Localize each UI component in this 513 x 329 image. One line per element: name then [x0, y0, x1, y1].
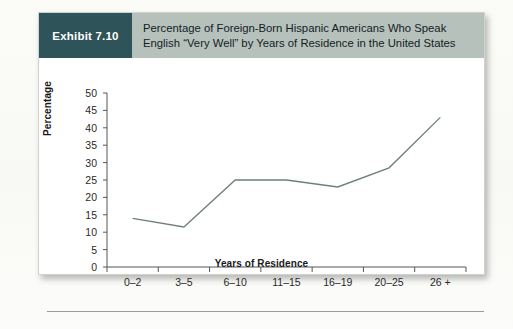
x-tick-label: 26 +	[415, 276, 466, 288]
exhibit-title: Percentage of Foreign-Born Hispanic Amer…	[132, 13, 484, 58]
x-tick-label: 20–25	[363, 276, 414, 288]
y-tick-label: 50	[71, 88, 97, 98]
x-tick-label: 16–19	[312, 276, 363, 288]
footer-rule	[47, 311, 484, 312]
exhibit-title-line-2: English “Very Well” by Years of Residenc…	[143, 36, 474, 51]
data-series-line	[133, 117, 441, 227]
y-tick-label: 10	[71, 227, 97, 237]
y-tick-label: 35	[71, 140, 97, 150]
x-tick-label: 3–5	[158, 276, 209, 288]
y-tick-label: 20	[71, 192, 97, 202]
exhibit-card: Exhibit 7.10 Percentage of Foreign-Born …	[38, 12, 485, 275]
y-tick-label: 5	[71, 245, 97, 255]
exhibit-title-line-1: Percentage of Foreign-Born Hispanic Amer…	[143, 21, 474, 36]
x-tick-label: 6–10	[210, 276, 261, 288]
y-tick-marks	[103, 93, 107, 267]
x-axis-title: Years of Residence	[39, 258, 484, 269]
y-tick-label: 15	[71, 210, 97, 220]
chart-plot-area: Percentage 05101520253035404550 0–23–56–…	[39, 58, 484, 274]
exhibit-badge: Exhibit 7.10	[39, 13, 132, 58]
y-tick-label: 25	[71, 175, 97, 185]
exhibit-header: Exhibit 7.10 Percentage of Foreign-Born …	[39, 13, 484, 58]
x-tick-label: 0–2	[107, 276, 158, 288]
line-chart-svg	[39, 58, 486, 276]
y-tick-label: 45	[71, 105, 97, 115]
x-tick-label: 11–15	[261, 276, 312, 288]
y-tick-label: 40	[71, 123, 97, 133]
y-tick-label: 30	[71, 158, 97, 168]
